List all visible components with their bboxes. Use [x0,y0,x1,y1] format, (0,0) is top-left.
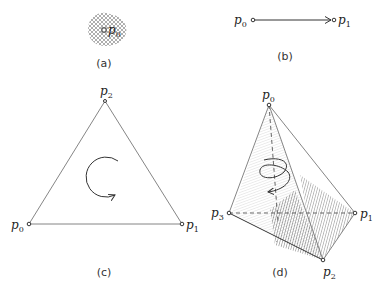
panel-c: p0 p1 p2 (c) [11,84,199,279]
orientation-arc-icon [86,157,118,197]
point-p0-marker [27,222,31,226]
caption-b: (b) [277,50,293,63]
label-p0: p0 [262,88,275,104]
label-p2: p2 [323,265,336,281]
label-p2: p2 [100,84,113,100]
panel-b: p0 p1 (b) [234,13,351,63]
panel-a: p0 (a) [88,13,126,70]
label-p3: p3 [211,206,224,222]
label-p0: p0 [234,13,247,29]
simplex-orientation-figure: p0 (a) p0 p1 (b) p0 p1 p2 (c) [0,0,380,289]
point-p0-marker [102,28,106,32]
caption-d: (d) [272,266,288,279]
label-p1: p1 [338,13,351,29]
point-p2-marker [321,258,325,262]
label-p0: p0 [11,218,24,234]
point-p1-marker [180,222,184,226]
caption-a: (a) [96,57,111,70]
point-p0-marker [251,18,255,22]
panel-d: p0 p1 p2 p3 (d) [211,88,373,281]
label-p1: p1 [360,207,373,223]
point-p1-marker [332,18,336,22]
point-p3-marker [227,211,231,215]
triangle [29,101,182,224]
label-p1: p1 [186,218,199,234]
point-p2-marker [104,100,107,103]
point-p1-marker [353,211,357,215]
caption-c: (c) [97,266,112,279]
